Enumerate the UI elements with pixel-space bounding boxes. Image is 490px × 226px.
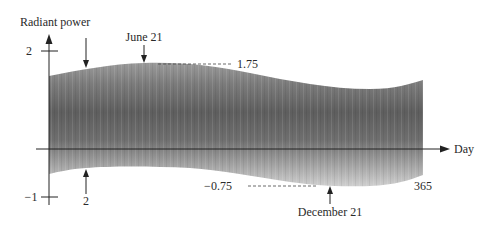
value-1-75-label: 1.75 bbox=[237, 57, 258, 71]
x-axis-arrow-icon bbox=[440, 146, 450, 153]
xtick-label-365: 365 bbox=[414, 179, 432, 193]
ytick-label-minus-1: −1 bbox=[25, 190, 38, 204]
june21-label: June 21 bbox=[126, 30, 163, 44]
y-axis-arrow-icon bbox=[46, 34, 53, 44]
x-axis-label: Day bbox=[454, 142, 474, 156]
radiant-power-chart: Radiant power Day 2 −1 June 21 1.75 −0.7… bbox=[0, 0, 490, 226]
arrow-up-icon bbox=[83, 169, 89, 177]
value-minus-0-75-label: −0.75 bbox=[204, 179, 232, 193]
xtick-label-2: 2 bbox=[83, 194, 89, 208]
arrow-down-icon bbox=[83, 60, 89, 68]
december21-label: December 21 bbox=[298, 205, 362, 219]
arrow-up-icon bbox=[327, 186, 333, 194]
y-axis-label: Radiant power bbox=[20, 15, 90, 29]
ytick-label-2: 2 bbox=[26, 44, 32, 58]
band-texture bbox=[49, 63, 423, 187]
arrow-down-icon bbox=[141, 55, 147, 63]
